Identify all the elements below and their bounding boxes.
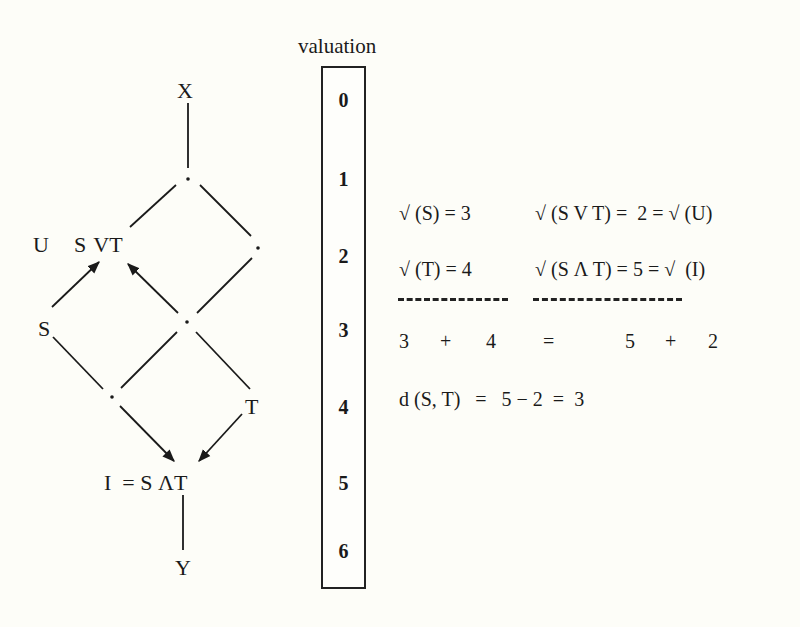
sum-plus-1: +	[440, 330, 451, 353]
arrow-center-join	[128, 264, 178, 313]
valuation-level-0: 0	[321, 89, 366, 112]
valuation-level-4: 4	[321, 396, 366, 419]
valuation-level-1: 1	[321, 168, 366, 191]
edge-top-right	[200, 185, 251, 236]
equation-val-join: √ (S V T) = 2 = √ (U)	[535, 202, 712, 225]
edge-center-lowerleft	[121, 332, 177, 388]
distance-equation: d (S, T) = 5 − 2 = 3	[399, 388, 584, 411]
arrow-t-meet	[199, 414, 242, 461]
node-dot-top	[186, 177, 190, 181]
node-label-t: T	[245, 394, 258, 420]
node-dot-center	[185, 320, 189, 324]
arrow-s-join	[52, 262, 99, 307]
valuation-level-3: 3	[321, 319, 366, 342]
node-label-y: Y	[175, 555, 191, 581]
valuation-level-6: 6	[321, 540, 366, 563]
sum-term-2: 4	[486, 330, 496, 353]
node-label-u: U	[33, 232, 49, 258]
dashed-rule-right	[533, 298, 682, 301]
valuation-level-2: 2	[321, 245, 366, 268]
node-label-x: X	[177, 78, 193, 104]
edge-top-join	[130, 185, 176, 227]
node-label-s: S	[38, 316, 50, 342]
sum-term-1: 3	[399, 330, 409, 353]
equation-val-t: √ (T) = 4	[399, 258, 472, 281]
sum-equals: =	[543, 330, 554, 353]
node-label-join: S VT	[74, 232, 123, 258]
equation-val-s: √ (S) = 3	[399, 202, 471, 225]
edge-center-t	[196, 332, 250, 389]
sum-term-4: 2	[708, 330, 718, 353]
sum-term-3: 5	[625, 330, 635, 353]
node-dot-lowerleft	[110, 395, 114, 399]
arrow-lowerleft-meet	[120, 406, 174, 461]
dashed-rule-left	[398, 298, 508, 301]
lattice-diagram	[0, 0, 300, 627]
valuation-title: valuation	[298, 34, 376, 59]
sum-plus-2: +	[665, 330, 676, 353]
edge-s-lowerleft	[53, 337, 103, 389]
node-label-meet: I = S ΛT	[104, 470, 187, 496]
edge-right-center	[197, 258, 252, 313]
node-dot-right	[256, 246, 260, 250]
equation-val-meet: √ (S Λ T) = 5 = √ (I)	[535, 258, 705, 281]
valuation-level-5: 5	[321, 472, 366, 495]
